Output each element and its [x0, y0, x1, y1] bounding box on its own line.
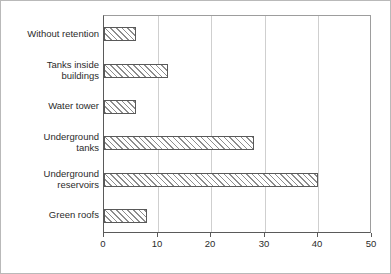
category-label-underground-tanks: Underground tanks — [3, 131, 99, 153]
x-tick-label-50: 50 — [356, 238, 386, 250]
x-tick-mark-10 — [157, 233, 158, 237]
x-tick-label-10: 10 — [142, 238, 172, 250]
x-tick-label-40: 40 — [302, 238, 332, 250]
x-tick-mark-40 — [317, 233, 318, 237]
gridline-20 — [211, 16, 212, 232]
category-label-tanks-inside-buildings: Tanks inside buildings — [3, 59, 99, 81]
x-tick-mark-50 — [371, 233, 372, 237]
gridline-10 — [158, 16, 159, 232]
category-label-green-roofs: Green roofs — [3, 209, 99, 220]
x-tick-label-0: 0 — [88, 238, 118, 250]
x-axis: 01020304050 — [103, 233, 371, 259]
gridline-40 — [318, 16, 319, 232]
x-tick-label-20: 20 — [195, 238, 225, 250]
category-label-underground-reservoirs: Underground reservoirs — [3, 168, 99, 190]
bar — [104, 173, 318, 187]
bar — [104, 64, 168, 78]
bar-chart-figure: Without retention Tanks inside buildings… — [0, 0, 391, 274]
bar — [104, 209, 147, 223]
category-label-without-retention: Without retention — [3, 28, 99, 39]
category-axis-labels: Without retention Tanks inside buildings… — [1, 15, 99, 233]
x-tick-label-30: 30 — [249, 238, 279, 250]
category-label-water-tower: Water tower — [3, 100, 99, 111]
bar — [104, 100, 136, 114]
bar — [104, 136, 254, 150]
bar — [104, 27, 136, 41]
x-tick-mark-30 — [264, 233, 265, 237]
x-tick-mark-20 — [210, 233, 211, 237]
gridline-30 — [265, 16, 266, 232]
plot-area — [103, 15, 371, 233]
x-tick-mark-0 — [103, 233, 104, 237]
